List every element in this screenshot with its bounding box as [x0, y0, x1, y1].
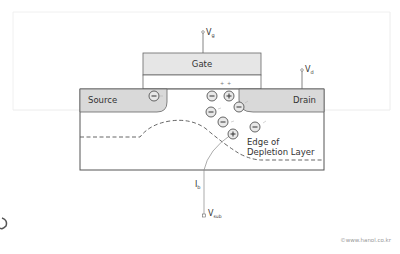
gate-label: Gate: [192, 59, 212, 69]
vg-terminal-icon: [202, 31, 205, 34]
depletion-label-line1: Edge of: [247, 137, 280, 147]
credit-text: ©www.hanol.co.kr: [340, 237, 391, 243]
hole-charge-icon: [228, 129, 238, 139]
drain-label: Drain: [293, 95, 316, 105]
ib-label: Ib: [195, 180, 201, 190]
vsub-label: Vsub: [208, 209, 222, 219]
vd-terminal-icon: [301, 69, 304, 72]
vsub-terminal-icon: [203, 214, 206, 217]
gate-oxide: [143, 75, 261, 89]
hole-charge-icon: [224, 91, 234, 101]
gate-plus-mark: +: [220, 80, 224, 86]
electron-charge-icon: [207, 91, 217, 101]
mosfet-diagram: Vg Gate Source Drain Vd + + Edge of Depl…: [0, 0, 400, 254]
edge-artifact: [0, 218, 7, 229]
source-label: Source: [88, 95, 117, 105]
gate-plus-mark: +: [227, 80, 231, 86]
depletion-label-line2: Depletion Layer: [247, 147, 315, 157]
